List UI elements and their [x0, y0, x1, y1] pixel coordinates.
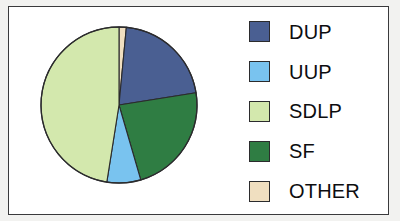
legend-label-sf: SF: [289, 141, 315, 161]
legend-swatch-uup: [249, 61, 270, 82]
figure-root: DUPUUPSDLPSFOTHER: [0, 0, 400, 221]
pie-slice-group: [41, 27, 197, 183]
legend-swatch-dup: [249, 21, 270, 42]
pie-chart: [35, 21, 203, 189]
legend-label-uup: UUP: [289, 62, 332, 82]
legend-item-dup: DUP: [249, 15, 332, 49]
legend-swatch-sdlp: [249, 101, 270, 122]
legend-item-other: OTHER: [249, 174, 360, 208]
figure-frame: DUPUUPSDLPSFOTHER: [8, 6, 389, 215]
legend-swatch-sf: [249, 141, 270, 162]
pie-slice-sdlp: [41, 27, 119, 182]
legend-label-other: OTHER: [289, 181, 360, 201]
legend-item-sdlp: SDLP: [249, 94, 342, 128]
legend-item-sf: SF: [249, 134, 315, 168]
chart-area: DUPUUPSDLPSFOTHER: [9, 7, 388, 214]
chart-legend: DUPUUPSDLPSFOTHER: [249, 12, 389, 211]
legend-label-sdlp: SDLP: [289, 101, 342, 121]
pie-slice-dup: [119, 27, 196, 105]
legend-label-dup: DUP: [289, 22, 332, 42]
legend-item-uup: UUP: [249, 55, 332, 89]
legend-swatch-other: [249, 181, 270, 202]
